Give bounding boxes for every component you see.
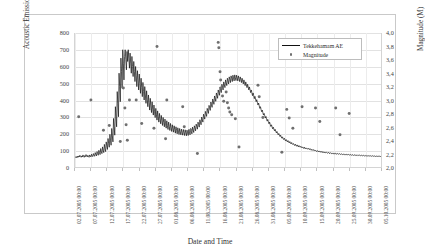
magnitude-point [280, 151, 283, 154]
x-tick-label: 10.09.2005 00:00 [302, 186, 308, 224]
magnitude-point [77, 115, 80, 118]
magnitude-point [228, 111, 231, 114]
x-tick-label: 05.10.2005 00:00 [383, 186, 389, 224]
magnitude-point [108, 124, 111, 127]
legend-item-ae: Tekkehamam AE [282, 41, 358, 50]
legend-dot-icon [282, 53, 300, 56]
magnitude-point [339, 133, 342, 136]
magnitude-point [288, 117, 291, 120]
magnitude-point [318, 120, 321, 123]
y-tick-label-left: 500 [43, 81, 69, 87]
x-tick-label: 20.09.2005 00:00 [335, 186, 341, 224]
magnitude-point [314, 107, 317, 110]
magnitude-point [226, 101, 229, 104]
x-tick-label: 27.07.2005 00:00 [157, 186, 163, 224]
y-tick-label-right: 2,8 [386, 111, 412, 117]
x-tick-label: 12.07.2005 00:00 [109, 186, 115, 224]
y-tick-label-left: 400 [43, 98, 69, 104]
x-tick-mark [252, 168, 253, 171]
magnitude-point [219, 70, 222, 73]
magnitude-point [164, 137, 167, 140]
y-tick-label-right: 3,2 [386, 84, 412, 90]
chart-legend: Tekkehamam AE Magnitude [278, 38, 362, 60]
x-tick-label: 07.07.2005 00:00 [92, 186, 98, 224]
magnitude-point [234, 117, 237, 120]
legend-label-magnitude: Magnitude [303, 52, 328, 58]
magnitude-point [183, 125, 186, 128]
legend-line-icon [282, 45, 300, 46]
y-axis-title-right: Magnitude (M) [417, 7, 425, 51]
magnitude-point [89, 99, 92, 102]
magnitude-point [230, 113, 233, 116]
y-tick-label-right: 2,2 [386, 152, 412, 158]
x-tick-mark [268, 168, 269, 171]
magnitude-point [238, 145, 241, 148]
y-tick-label-right: 2,4 [386, 138, 412, 144]
y-tick-label-right: 3,0 [386, 98, 412, 104]
x-tick-label: 02.07.2005 00:00 [76, 186, 82, 224]
y-tick-label-right: 2,0 [386, 165, 412, 171]
magnitude-point [222, 100, 225, 103]
x-tick-mark [365, 168, 366, 171]
x-tick-label: 26.08.2005 00:00 [254, 186, 260, 224]
x-tick-mark [171, 168, 172, 171]
x-axis-title: Date and Time [25, 237, 395, 245]
magnitude-point [221, 94, 224, 97]
magnitude-point [219, 78, 222, 81]
magnitude-point [301, 105, 304, 108]
magnitude-point [128, 99, 131, 102]
magnitude-point [165, 99, 168, 102]
y-tick-label-left: 200 [43, 131, 69, 137]
magnitude-point [135, 99, 138, 102]
y-tick-label-right: 2,6 [386, 125, 412, 131]
magnitude-point [122, 86, 125, 89]
magnitude-point [102, 129, 105, 132]
magnitude-point [220, 86, 223, 89]
x-tick-mark [284, 168, 285, 171]
x-tick-mark [106, 168, 107, 171]
magnitude-point [334, 107, 337, 110]
magnitude-point [140, 122, 143, 125]
x-tick-mark [219, 168, 220, 171]
y-tick-label-left: 0 [43, 165, 69, 171]
x-tick-mark [381, 168, 382, 171]
x-tick-label: 22.07.2005 00:00 [141, 186, 147, 224]
x-tick-mark [122, 168, 123, 171]
magnitude-point [256, 84, 259, 87]
x-tick-mark [333, 168, 334, 171]
magnitude-point [225, 90, 228, 93]
x-tick-label: 06.08.2005 00:00 [189, 186, 195, 224]
x-tick-label: 15.09.2005 00:00 [319, 186, 325, 224]
x-tick-mark [349, 168, 350, 171]
y-axis-title-left: Acoustic Emission Count [23, 0, 31, 49]
x-tick-mark [139, 168, 140, 171]
magnitude-point [348, 112, 351, 115]
magnitude-point [261, 116, 264, 119]
magnitude-point [126, 139, 129, 142]
magnitude-point [152, 127, 155, 130]
x-tick-mark [300, 168, 301, 171]
y-tick-label-left: 700 [43, 47, 69, 53]
y-tick-label-left: 800 [43, 30, 69, 36]
x-tick-mark [316, 168, 317, 171]
magnitude-point [181, 105, 184, 108]
magnitude-point [119, 140, 122, 143]
chart-frame: Acoustic Emission Count 0100200300400500… [24, 14, 396, 214]
y-tick-label-right: 3,4 [386, 71, 412, 77]
legend-item-magnitude: Magnitude [282, 50, 358, 59]
magnitude-point [258, 95, 261, 98]
x-tick-label: 05.09.2005 00:00 [286, 186, 292, 224]
x-tick-mark [155, 168, 156, 171]
y-tick-label-right: 4,0 [386, 30, 412, 36]
x-axis-tick-labels: 02.07.2005 00:0007.07.2005 00:0012.07.20… [74, 172, 382, 228]
x-tick-mark [203, 168, 204, 171]
x-tick-label: 30.09.2005 00:00 [367, 186, 373, 224]
y-tick-label-right: 3,8 [386, 44, 412, 50]
magnitude-point [196, 152, 199, 155]
legend-label-ae: Tekkehamam AE [303, 43, 343, 49]
x-tick-label: 11.08.2005 00:00 [205, 186, 211, 224]
magnitude-point [217, 41, 220, 44]
magnitude-point [227, 107, 230, 110]
x-tick-mark [236, 168, 237, 171]
